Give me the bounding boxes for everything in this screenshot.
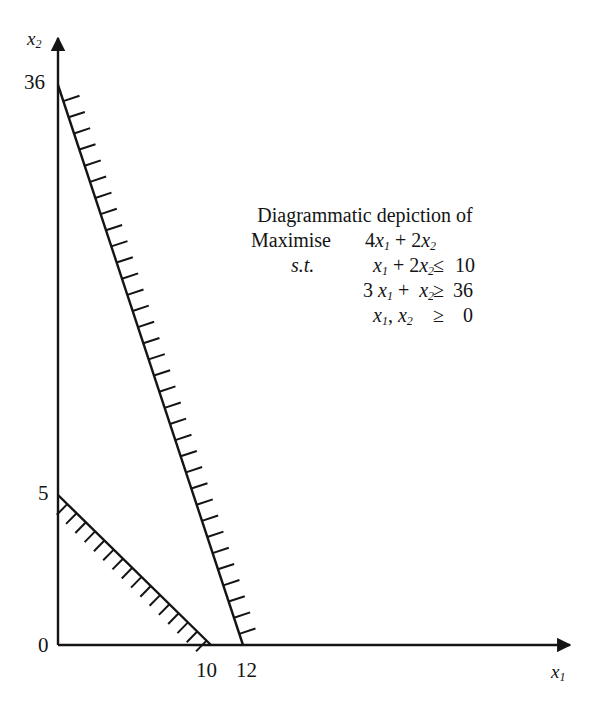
- x-tick-label-12: 12: [236, 658, 257, 683]
- constraint-line-x1-plus-2x2-eq-10: [57, 495, 211, 651]
- x-axis-label: x1: [551, 661, 565, 685]
- subject-to-label: s.t.: [291, 253, 314, 278]
- constraint-3-lhs: x1, x2: [373, 303, 413, 334]
- constraint-2-rhs: 36: [453, 278, 473, 303]
- constraint-row-2: 3 x1 + x2 ≥ 36: [215, 278, 515, 303]
- lp-diagram-svg: [0, 0, 593, 706]
- x-tick-label-10: 10: [196, 658, 217, 683]
- y-tick-label-5: 5: [38, 481, 49, 506]
- constraint-3-rhs: 0: [463, 303, 473, 328]
- constraint-2-relation: ≥: [433, 278, 444, 303]
- y-axis-label: x2: [27, 28, 41, 52]
- constraint-row-1: s.t. x1 + 2x2 ≤ 10: [215, 253, 515, 278]
- caption-title: Diagrammatic depiction of: [215, 203, 515, 228]
- objective-word: Maximise: [251, 228, 331, 253]
- constraint-line-3x1-plus-x2-eq-36: [58, 85, 255, 645]
- y-tick-label-36: 36: [24, 70, 45, 95]
- origin-label-0: 0: [38, 633, 49, 658]
- constraint-3-relation: ≥: [433, 303, 444, 328]
- constraint-1-relation: ≤: [433, 253, 444, 278]
- lp-formulation-block: Diagrammatic depiction of Maximise 4x1 +…: [215, 203, 515, 328]
- objective-line: Maximise 4x1 + 2x2: [215, 228, 515, 253]
- constraint-1-rhs: 10: [455, 253, 475, 278]
- figure-canvas: x2 x1 36 5 0 10 12 Diagrammatic depictio…: [0, 0, 593, 706]
- constraint-row-3: x1, x2 ≥ 0: [215, 303, 515, 328]
